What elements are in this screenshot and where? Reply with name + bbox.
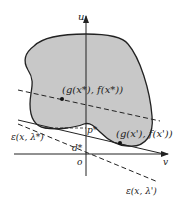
eps-lambda-star-label: ε(x, λ*) xyxy=(11,132,44,142)
diagram-canvas: u v o (g(x*), f(x*)) (g(x'), f(x')) ε(x,… xyxy=(0,0,192,206)
v-axis-label: v xyxy=(163,157,168,167)
point-x-star-label: (g(x*), f(x*)) xyxy=(62,84,123,95)
u-axis-label: u xyxy=(78,11,84,22)
d-star-label: d* xyxy=(72,143,83,153)
p-star-label: p* xyxy=(87,125,98,135)
point-x-prime-label: (g(x'), f(x')) xyxy=(116,128,173,139)
eps-lambda-prime-label: ε(x, λ') xyxy=(126,186,157,196)
origin-label: o xyxy=(77,157,83,167)
point-x-star xyxy=(60,97,64,101)
point-x-prime xyxy=(118,141,122,145)
